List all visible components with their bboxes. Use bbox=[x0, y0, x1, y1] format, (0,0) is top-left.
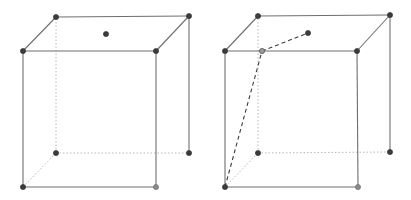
cube-left bbox=[20, 13, 191, 189]
dashed-segment-AQ bbox=[225, 51, 262, 187]
edge-BB1 bbox=[357, 51, 358, 187]
edge-B1C1 bbox=[357, 15, 390, 51]
vertex-D bbox=[255, 150, 260, 155]
vertex-B1 bbox=[153, 48, 158, 53]
vertex-D1 bbox=[255, 13, 260, 18]
edge-B1C1 bbox=[156, 16, 189, 51]
diagram-canvas bbox=[0, 0, 411, 200]
vertex-A bbox=[20, 184, 25, 189]
vertex-D1 bbox=[53, 14, 58, 19]
vertex-D bbox=[53, 150, 58, 155]
point-P bbox=[305, 30, 310, 35]
vertex-C1 bbox=[186, 13, 191, 18]
vertex-A bbox=[222, 184, 227, 189]
dashed-segment-QP bbox=[262, 33, 308, 51]
vertex-A1 bbox=[222, 48, 227, 53]
edge-D1A1 bbox=[23, 17, 56, 51]
point-P bbox=[103, 31, 108, 36]
hidden-edge-AD bbox=[23, 153, 56, 187]
vertex-C1 bbox=[387, 12, 392, 17]
vertex-A1 bbox=[20, 48, 25, 53]
edge-C1D1 bbox=[56, 16, 189, 17]
edge-D1A1 bbox=[225, 16, 258, 51]
hidden-edge-DC bbox=[258, 152, 390, 153]
point-Q bbox=[259, 48, 264, 53]
cube-right bbox=[222, 12, 392, 189]
vertex-B bbox=[153, 184, 158, 189]
edge-C1D1 bbox=[258, 15, 390, 16]
vertex-B1 bbox=[354, 48, 359, 53]
vertex-B bbox=[355, 184, 360, 189]
vertex-C bbox=[186, 150, 191, 155]
vertex-C bbox=[387, 149, 392, 154]
